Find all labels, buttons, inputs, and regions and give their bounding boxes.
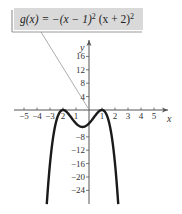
y-tick-label: 8 — [81, 78, 86, 88]
formula-label: g(x) = −(x − 1)2 (x + 2)2 — [20, 12, 134, 26]
x-tick-label: −5 — [19, 111, 29, 121]
y-axis-label: y — [79, 42, 85, 53]
y-tick-label: −12 — [71, 145, 85, 155]
x-tick-label: −4 — [32, 111, 42, 121]
y-tick-label: 12 — [76, 65, 85, 75]
x-tick-label: 1 — [74, 111, 79, 121]
x-tick-label: 4 — [139, 111, 144, 121]
y-tick-label: −24 — [71, 185, 86, 195]
x-tick-label: 5 — [152, 111, 157, 121]
y-tick-label: −8 — [75, 132, 85, 142]
y-tick-label: −20 — [71, 172, 86, 182]
x-axis-label: x — [166, 113, 172, 124]
y-tick-label: 4 — [81, 92, 86, 102]
x-tick-label: −3 — [45, 111, 55, 121]
function-graph: g(x) = −(x − 1)2 (x + 2)2 −5−4−321123451… — [0, 0, 182, 214]
x-tick-label: 2 — [61, 111, 66, 121]
formula-callout: g(x) = −(x − 1)2 (x + 2)2 — [12, 8, 143, 32]
x-tick-label: 1 — [100, 111, 105, 121]
x-tick-label: 2 — [113, 111, 118, 121]
x-tick-label: 3 — [126, 111, 131, 121]
y-tick-label: −16 — [71, 159, 86, 169]
